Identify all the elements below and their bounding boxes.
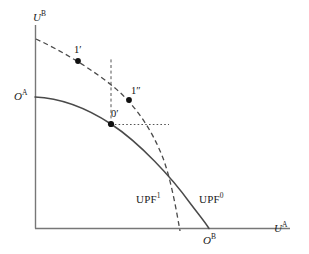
upf-diagram-figure: UB UA OA OB UPF1 UPF0 1′ 1″ 0′ xyxy=(0,0,309,254)
data-point-1-double-prime xyxy=(126,97,132,103)
point-label-1-prime: 1′ xyxy=(74,45,82,56)
point-label-1-double-prime: 1″ xyxy=(131,86,141,97)
y-axis-label: UB xyxy=(33,10,46,23)
plot-canvas xyxy=(0,0,309,254)
data-point-0-prime xyxy=(108,121,114,127)
upf0-curve-label: UPF0 xyxy=(199,192,224,205)
upf0-curve xyxy=(35,97,209,229)
upf1-curve-label: UPF1 xyxy=(136,192,161,205)
x-axis-label: UA xyxy=(274,221,287,234)
origin-a-label: OA xyxy=(14,89,27,102)
data-point-1-prime xyxy=(75,58,81,64)
point-label-0-prime: 0′ xyxy=(111,109,119,120)
origin-b-label: OB xyxy=(203,233,216,246)
